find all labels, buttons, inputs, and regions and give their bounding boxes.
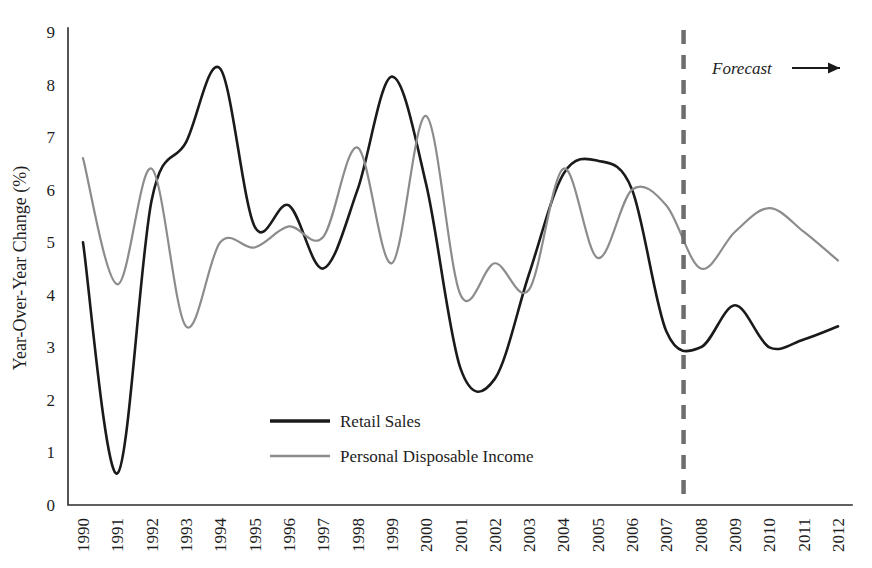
y-axis-title-group: Year-Over-Year Change (%) <box>10 166 31 371</box>
x-tick-label: 1992 <box>143 518 162 552</box>
x-tick-label: 2006 <box>623 518 642 552</box>
x-tick-label: 1993 <box>177 518 196 552</box>
y-tick-label: 9 <box>47 23 56 42</box>
y-tick-label: 3 <box>47 338 56 357</box>
y-tick-label: 2 <box>47 391 56 410</box>
y-tick-label: 6 <box>47 181 56 200</box>
y-tick-label: 1 <box>47 443 56 462</box>
x-tick-label: 2010 <box>760 518 779 552</box>
axis-frame <box>68 28 852 505</box>
series-group <box>83 67 838 474</box>
x-tick-label: 1997 <box>314 518 333 553</box>
y-axis-title: Year-Over-Year Change (%) <box>10 166 31 371</box>
x-tick-label: 2002 <box>486 518 505 552</box>
series-line-retail-sales <box>83 67 838 474</box>
x-tick-label: 1996 <box>280 518 299 552</box>
x-tick-label: 1990 <box>74 518 93 552</box>
legend-label-retail-sales: Retail Sales <box>340 412 421 431</box>
x-tick-label: 2005 <box>589 518 608 552</box>
x-tick-label: 2011 <box>795 518 814 551</box>
series-line-personal-disposable-income <box>83 116 838 328</box>
x-tick-label: 2000 <box>417 518 436 552</box>
x-tick-label: 1998 <box>349 518 368 552</box>
x-tick-label: 2001 <box>452 518 471 552</box>
y-axis-tick-labels: 0123456789 <box>47 23 56 515</box>
x-tick-label: 2009 <box>726 518 745 552</box>
x-tick-label: 2007 <box>657 518 676 553</box>
x-tick-label: 2004 <box>554 518 573 553</box>
y-tick-label: 5 <box>47 233 56 252</box>
y-tick-label: 8 <box>47 76 56 95</box>
y-tick-label: 4 <box>47 286 56 305</box>
x-tick-label: 1999 <box>383 518 402 552</box>
legend-label-personal-disposable-income: Personal Disposable Income <box>340 447 534 466</box>
y-tick-label: 7 <box>47 128 56 147</box>
forecast-label: Forecast <box>711 59 773 78</box>
forecast-arrow-icon <box>792 63 840 74</box>
y-tick-label: 0 <box>47 496 56 515</box>
x-tick-label: 2012 <box>829 518 848 552</box>
chart-container: Year-Over-Year Change (%) 0123456789 199… <box>0 0 872 568</box>
x-tick-label: 1994 <box>211 518 230 553</box>
x-tick-label: 1991 <box>108 518 127 552</box>
x-tick-label: 2008 <box>692 518 711 552</box>
x-tick-label: 1995 <box>246 518 265 552</box>
x-axis-tick-labels: 1990199119921993199419951996199719981999… <box>74 518 848 553</box>
chart-legend: Retail Sales Personal Disposable Income <box>270 412 534 466</box>
line-chart: Year-Over-Year Change (%) 0123456789 199… <box>0 0 872 568</box>
x-tick-label: 2003 <box>520 518 539 552</box>
